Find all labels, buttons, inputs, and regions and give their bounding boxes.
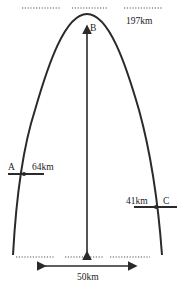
point-c-marker	[154, 205, 158, 209]
trajectory-diagram: 197km B A 64km 41km C 50km	[0, 0, 180, 286]
point-c-label: C	[163, 196, 169, 206]
point-b-label: B	[90, 23, 96, 33]
point-a-altitude-label: 64km	[32, 162, 54, 172]
point-c-altitude-label: 41km	[126, 196, 148, 206]
point-a-marker	[22, 172, 26, 176]
base-width-label: 50km	[77, 272, 99, 282]
peak-altitude-label: 197km	[126, 16, 153, 26]
point-a-label: A	[8, 162, 15, 172]
